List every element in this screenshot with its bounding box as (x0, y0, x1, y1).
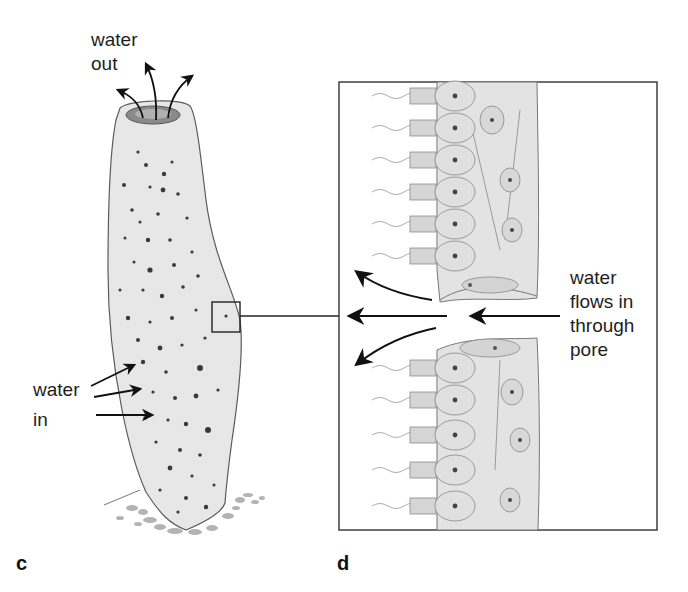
label-water-in-line2: in (33, 405, 79, 435)
panel-letter-d: d (337, 552, 349, 575)
panel-letter-c: c (16, 552, 27, 575)
label-flow-line4: pore (570, 338, 634, 362)
label-flow-line1: water (570, 266, 634, 290)
label-water-out-line1: water (91, 28, 137, 52)
label-water-out: water out (91, 28, 137, 76)
label-flow-line2: flows in (570, 290, 634, 314)
label-water-flows-in: water flows in through pore (570, 266, 634, 362)
sponge-body (104, 101, 339, 535)
collar-cells-lower (372, 353, 475, 521)
label-water-in-line1: water (33, 375, 79, 405)
label-water-in: water in (33, 375, 79, 435)
label-flow-line3: through (570, 314, 634, 338)
label-water-out-line2: out (91, 52, 137, 76)
sponge-figure: water out water in water flows in throug… (0, 0, 688, 592)
